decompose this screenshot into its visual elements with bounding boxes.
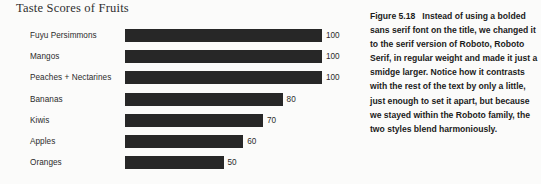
bar-row: Bananas80 <box>0 93 368 114</box>
bar-rows: Fuyu Persimmons100Mangos100Peaches + Nec… <box>0 29 368 177</box>
bar-fill <box>125 114 263 127</box>
bar-value-label: 70 <box>263 114 276 127</box>
caption-line: stayed within the Roboto family, <box>384 110 515 120</box>
bar-track <box>125 71 322 84</box>
chart-title: Taste Scores of Fruits <box>16 1 129 16</box>
caption-line: Instead of using a <box>422 11 495 21</box>
bar-category-label: Kiwis <box>30 114 49 128</box>
caption-line: harmoniously. <box>439 124 497 134</box>
bar-row: Fuyu Persimmons100 <box>0 29 368 50</box>
caption-figure-number: Figure 5.18 <box>370 11 415 21</box>
bar-category-label: Bananas <box>30 93 63 107</box>
bar-value-label: 50 <box>224 156 237 169</box>
bar-row: Peaches + Nectarines100 <box>0 71 368 92</box>
bar-value-label: 100 <box>322 29 340 42</box>
bar-fill <box>125 71 322 84</box>
bar-track <box>125 156 224 169</box>
bar-category-label: Oranges <box>30 156 62 170</box>
bar-row: Kiwis70 <box>0 114 368 135</box>
bar-fill <box>125 50 322 63</box>
bar-category-label: Mangos <box>30 50 59 64</box>
bar-fill <box>125 156 224 169</box>
bar-row: Mangos100 <box>0 50 368 71</box>
bar-chart-panel: Taste Scores of Fruits Fuyu Persimmons10… <box>0 0 368 184</box>
bar-row: Oranges50 <box>0 156 368 177</box>
caption-line: in regular weight and made it <box>394 53 513 63</box>
bar-category-label: Apples <box>30 135 55 149</box>
bar-fill <box>125 29 322 42</box>
bar-row: Apples60 <box>0 135 368 156</box>
bar-track <box>125 114 263 127</box>
bar-track <box>125 50 322 63</box>
figure-page: Taste Scores of Fruits Fuyu Persimmons10… <box>0 0 541 184</box>
caption-body: Instead of using a bolded sans serif fon… <box>370 11 537 134</box>
bar-track <box>125 29 322 42</box>
bar-fill <box>125 93 283 106</box>
bar-value-label: 60 <box>243 135 256 148</box>
bar-value-label: 80 <box>283 93 296 106</box>
bar-value-label: 100 <box>322 71 340 84</box>
bar-track <box>125 93 283 106</box>
figure-caption: Figure 5.18Instead of using a bolded san… <box>370 9 538 136</box>
bar-category-label: Peaches + Nectarines <box>30 71 111 85</box>
bar-track <box>125 135 243 148</box>
bar-category-label: Fuyu Persimmons <box>30 29 97 43</box>
bar-fill <box>125 135 243 148</box>
bar-value-label: 100 <box>322 50 340 63</box>
